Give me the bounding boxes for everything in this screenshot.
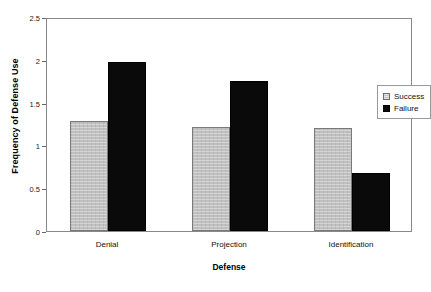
legend-label-failure: Failure — [394, 104, 418, 113]
x-tick-label: Identification — [329, 240, 374, 249]
legend-swatch-success-icon — [383, 93, 390, 100]
x-tick-label: Denial — [96, 240, 119, 249]
legend-item-success: Success — [383, 90, 424, 102]
x-tick-label: Projection — [211, 240, 247, 249]
y-tick-label: 2.5 — [0, 14, 40, 23]
y-tick-label: 0.5 — [0, 185, 40, 194]
y-tick-label: 1.5 — [0, 99, 40, 108]
y-axis-title: Frequency of Defense Use — [6, 0, 24, 232]
y-tick-mark — [42, 232, 46, 233]
y-tick-label: 1 — [0, 142, 40, 151]
legend-label-success: Success — [394, 92, 424, 101]
x-axis-title: Defense — [46, 262, 412, 272]
legend-swatch-failure-icon — [383, 105, 390, 112]
bar-projection-success — [192, 127, 230, 231]
plot-area: Success Failure — [46, 18, 412, 232]
y-tick-label: 0 — [0, 228, 40, 237]
bar-identification-success — [314, 128, 352, 231]
bar-denial-failure — [108, 62, 146, 231]
legend-item-failure: Failure — [383, 102, 424, 114]
y-tick-label: 2 — [0, 56, 40, 65]
bar-identification-failure — [352, 173, 390, 231]
chart-legend: Success Failure — [377, 85, 431, 119]
bar-denial-success — [70, 121, 108, 231]
bar-projection-failure — [230, 81, 268, 231]
